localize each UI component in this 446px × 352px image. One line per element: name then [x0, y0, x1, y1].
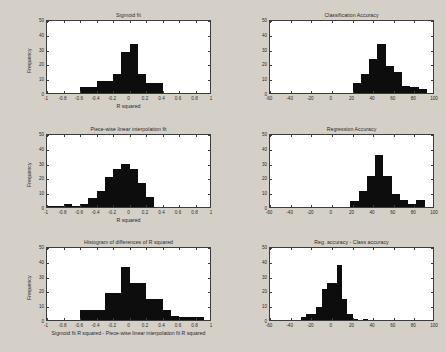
x-tick-mark [332, 248, 333, 250]
x-tick-mark [291, 318, 292, 320]
chart-panel-reg-minus-class-accuracy: Reg. accuracy - Class accuracy-60-40-200… [0, 0, 446, 352]
x-tick-mark [373, 248, 374, 250]
x-tick-mark [311, 248, 312, 250]
x-tick-mark [394, 318, 395, 320]
y-tick-mark [431, 248, 433, 249]
plot-area-reg-minus-class-accuracy [269, 247, 434, 321]
y-tick-label: 40 [257, 259, 267, 264]
x-tick-label: 0 [330, 323, 333, 328]
y-tick-mark [270, 248, 272, 249]
y-tick-mark [270, 292, 272, 293]
x-tick-label: 100 [430, 323, 438, 328]
histogram-bars [270, 248, 433, 320]
x-tick-mark [291, 248, 292, 250]
y-tick-label: 10 [257, 304, 267, 309]
y-tick-mark [431, 307, 433, 308]
figure-canvas: Sigmoid fit-1-0.8-0.6-0.4-0.200.20.40.60… [0, 0, 446, 352]
x-tick-label: 20 [349, 323, 354, 328]
y-tick-mark [270, 263, 272, 264]
x-tick-label: 80 [411, 323, 416, 328]
y-tick-label: 0 [257, 319, 267, 324]
x-tick-mark [394, 248, 395, 250]
x-tick-mark [353, 318, 354, 320]
x-tick-label: -20 [307, 323, 314, 328]
y-tick-mark [431, 292, 433, 293]
histogram-bar [353, 319, 358, 320]
x-tick-mark [414, 248, 415, 250]
x-tick-mark [332, 318, 333, 320]
x-tick-mark [414, 318, 415, 320]
y-tick-label: 20 [257, 289, 267, 294]
x-tick-mark [373, 318, 374, 320]
histogram-bar [363, 319, 368, 320]
x-tick-mark [270, 318, 271, 320]
y-tick-mark [270, 307, 272, 308]
x-tick-label: 60 [390, 323, 395, 328]
y-tick-mark [431, 278, 433, 279]
y-tick-label: 50 [257, 245, 267, 250]
x-tick-label: -40 [286, 323, 293, 328]
y-tick-label: 30 [257, 274, 267, 279]
y-tick-mark [270, 278, 272, 279]
x-tick-mark [311, 318, 312, 320]
x-tick-mark [353, 248, 354, 250]
x-tick-label: 40 [370, 323, 375, 328]
y-tick-mark [431, 263, 433, 264]
